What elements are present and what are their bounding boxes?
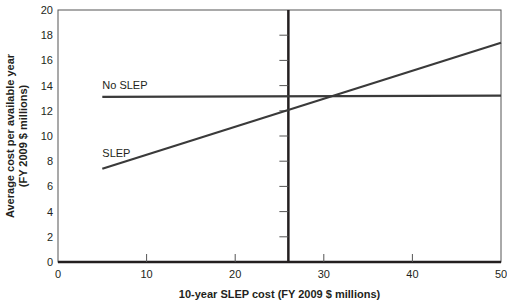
y-axis-label-line: (FY 2009 $ millions) (17, 84, 29, 187)
x-tick-label: 30 (318, 268, 330, 280)
x-tick-label: 40 (406, 268, 418, 280)
y-axis-label-line: Average cost per available year (4, 53, 16, 218)
y-tick-label: 8 (47, 155, 53, 167)
y-tick-label: 10 (41, 130, 53, 142)
x-tick-label: 20 (229, 268, 241, 280)
y-tick-label: 4 (47, 206, 53, 218)
series-label: No SLEP (102, 79, 147, 91)
y-tick-label: 0 (47, 256, 53, 268)
series-label: SLEP (102, 147, 130, 159)
x-tick-label: 10 (140, 268, 152, 280)
series-line-no-slep (102, 96, 501, 97)
y-tick-label: 16 (41, 54, 53, 66)
y-tick-label: 2 (47, 231, 53, 243)
x-tick-label: 0 (55, 268, 61, 280)
y-tick-label: 18 (41, 29, 53, 41)
x-axis-label: 10-year SLEP cost (FY 2009 $ millions) (179, 288, 381, 300)
x-tick-label: 50 (495, 268, 507, 280)
y-tick-label: 20 (41, 4, 53, 16)
series-line-slep (102, 43, 501, 169)
y-axis-label: Average cost per available year(FY 2009 … (4, 53, 29, 218)
y-tick-label: 12 (41, 105, 53, 117)
y-tick-label: 6 (47, 180, 53, 192)
chart: 0246810121416182001020304050No SLEPSLEP1… (0, 0, 507, 301)
y-tick-label: 14 (41, 80, 53, 92)
